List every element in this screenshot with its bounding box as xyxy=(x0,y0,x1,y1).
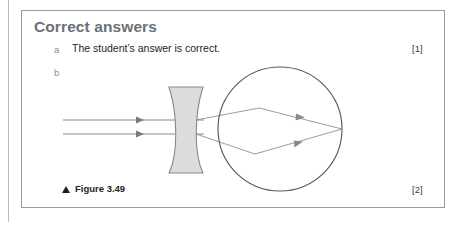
arrowhead-incoming-lower xyxy=(136,131,144,138)
refracted-ray-lower xyxy=(255,129,342,154)
page-margin-rule xyxy=(8,0,9,222)
page-root: Correct answers a The student’s answer i… xyxy=(0,0,463,232)
answer-item-b-marks: [2] xyxy=(412,184,423,195)
eye-circle xyxy=(218,67,342,191)
figure-caption-text: Figure 3.49 xyxy=(75,183,125,194)
diverged-rays xyxy=(196,108,259,154)
incoming-rays xyxy=(63,120,204,134)
answer-item-b-letter: b xyxy=(54,67,59,78)
incoming-ray-arrowheads xyxy=(136,117,144,138)
diverged-ray-lower xyxy=(196,134,255,154)
card-title: Correct answers xyxy=(34,18,157,36)
refracted-ray-upper xyxy=(259,108,342,129)
diverged-ray-upper xyxy=(196,108,259,120)
correct-answers-card: Correct answers a The student’s answer i… xyxy=(21,10,445,208)
refracted-ray-arrowheads xyxy=(294,114,305,148)
answer-item-a-letter: a xyxy=(54,44,59,55)
arrowhead-refracted-upper xyxy=(296,114,306,121)
triangle-up-icon xyxy=(62,186,70,193)
answer-item-a-text: The student’s answer is correct. xyxy=(72,42,220,54)
answer-item-a-marks: [1] xyxy=(412,43,423,54)
arrowhead-incoming-upper xyxy=(136,117,144,124)
refracted-rays xyxy=(255,108,342,154)
arrowhead-refracted-lower xyxy=(294,141,303,148)
optics-diagram-svg xyxy=(22,11,446,209)
optics-figure xyxy=(22,11,446,209)
figure-caption: Figure 3.49 xyxy=(62,183,125,194)
concave-lens xyxy=(169,87,203,173)
